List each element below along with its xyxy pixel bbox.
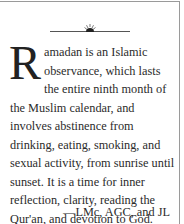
half-sun-icon (84, 24, 96, 32)
drop-cap: R (9, 45, 41, 81)
attribution: —LMc, AGC, and JL (63, 205, 170, 220)
ramadan-paragraph: R amadan is an Islamic observance, which… (10, 43, 176, 224)
ornament-divider (50, 24, 130, 34)
